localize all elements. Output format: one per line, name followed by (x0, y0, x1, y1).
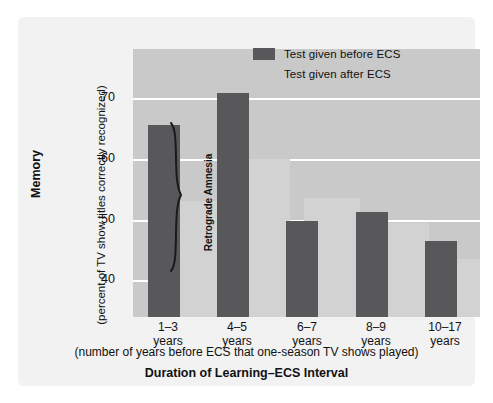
legend: Test given before ECS Test given after E… (253, 45, 401, 82)
x-tick-range-2: 4–5 (197, 320, 277, 334)
x-tick-label-1: 1–3 years (128, 320, 208, 348)
x-tick-range-1: 1–3 (128, 320, 208, 334)
legend-swatch-dark-icon (253, 48, 275, 60)
legend-item-after-ecs: Test given after ECS (253, 65, 401, 82)
legend-label-before-ecs: Test given before ECS (284, 48, 401, 60)
bar-4-5-years (217, 93, 249, 317)
chart-panel: Memory (percent of TV show titles correc… (18, 17, 475, 386)
x-tick-range-5: 10–17 (405, 320, 485, 334)
retrograde-amnesia-brace-icon (168, 121, 190, 273)
y-tick-label-40: 40 (75, 272, 115, 286)
x-tick-range-3: 6–7 (267, 320, 347, 334)
x-tick-range-4: 8–9 (336, 320, 416, 334)
x-tick-label-4: 8–9 years (336, 320, 416, 348)
legend-item-before-ecs: Test given before ECS (253, 45, 401, 62)
x-tick-label-2: 4–5 years (197, 320, 277, 348)
x-tick-label-5: 10–17 years (405, 320, 485, 348)
x-axis-title: Duration of Learning–ECS Interval (0, 366, 493, 380)
x-axis-subtitle: (number of years before ECS that one-sea… (0, 345, 493, 359)
legend-label-after-ecs: Test given after ECS (284, 68, 391, 80)
y-tick-label-70: 70 (75, 90, 115, 104)
legend-swatch-light-icon (253, 68, 275, 80)
bar-10-17-years (425, 241, 457, 317)
retrograde-amnesia-label: Retrograde Amnesia (203, 154, 214, 251)
y-axis-title: Memory (29, 150, 43, 198)
figure-canvas: Memory (percent of TV show titles correc… (0, 0, 493, 403)
bar-6-7-years (286, 221, 318, 317)
x-tick-label-3: 6–7 years (267, 320, 347, 348)
bar-8-9-years (356, 212, 388, 317)
y-tick-label-60: 60 (75, 151, 115, 165)
y-tick-label-50: 50 (75, 212, 115, 226)
y-axis-subtitle: (percent of TV show titles correctly rec… (95, 85, 107, 324)
gridline-70 (133, 98, 480, 100)
